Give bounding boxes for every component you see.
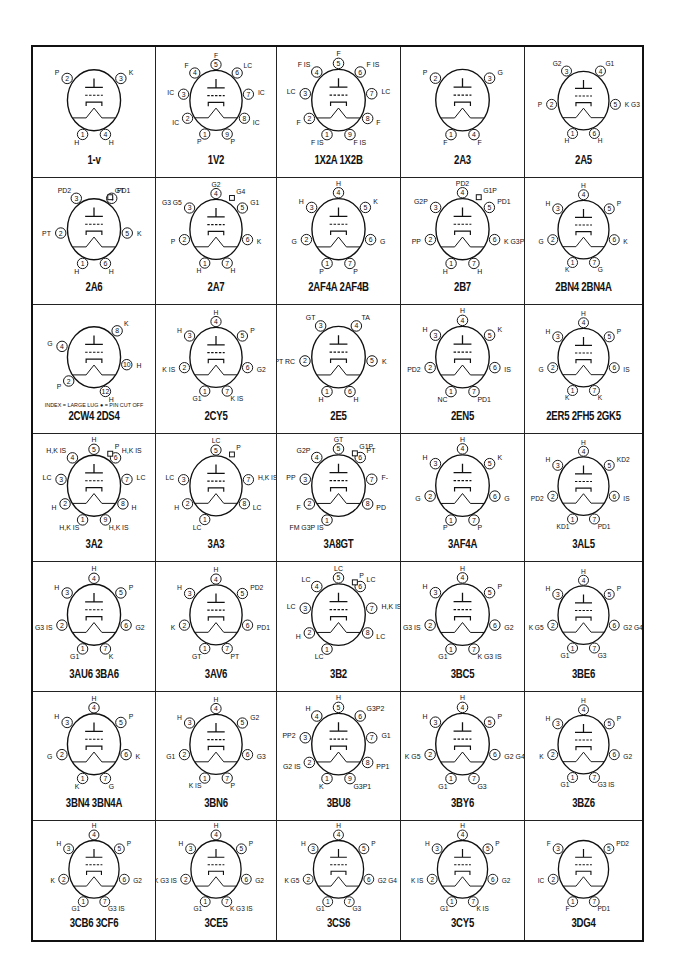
pin-number: 1 — [449, 517, 453, 524]
pin-number: 6 — [103, 260, 107, 267]
pin-number: 7 — [103, 775, 107, 782]
pin: 3H — [545, 715, 562, 729]
pin-label: H — [443, 268, 448, 275]
plate-symbol — [575, 849, 592, 857]
pin-number: 5 — [607, 720, 611, 727]
pin: 1GT — [192, 643, 210, 659]
pin: 8LC — [239, 499, 261, 511]
plate-symbol — [85, 79, 103, 88]
pin-label: G2 — [211, 181, 220, 188]
cathode-symbol — [208, 359, 223, 363]
pin-label: IC — [167, 89, 174, 96]
pin-label: GT — [306, 314, 316, 321]
pin: 3PP2 — [282, 732, 310, 743]
plate-symbol — [330, 722, 348, 731]
pin: 3G3 G5 — [162, 199, 195, 213]
tube-type-label: 2A7 — [168, 280, 264, 294]
pin: 4H — [457, 565, 468, 583]
tube-cell: 1G12G3 IS3H4H5P6G27K3AU6 3BA6 — [33, 562, 156, 692]
filament-symbol — [441, 108, 485, 118]
pin: 6G2 G4 — [609, 620, 642, 630]
pin: 5G2 — [237, 714, 259, 728]
pin-number: 4 — [214, 576, 218, 583]
pin-label: H — [214, 566, 219, 573]
tube-type-label: 3AV6 — [168, 667, 264, 681]
cathode-symbol — [455, 359, 471, 363]
pin-label: H — [336, 694, 341, 701]
pin-label: H — [353, 396, 358, 403]
cathode-symbol — [576, 617, 591, 621]
plate-symbol — [85, 336, 103, 345]
pin: 2H — [52, 499, 71, 512]
pin-label: IC — [172, 119, 179, 126]
pin-number: 1 — [81, 516, 85, 523]
pin-number: 4 — [599, 68, 603, 75]
top-cap — [108, 195, 113, 200]
pin-label: KD1 — [557, 523, 570, 530]
pin: 5P — [604, 585, 622, 599]
tube-type-label: 3AU6 3BA6 — [45, 667, 143, 681]
pin-label: G3 IS — [598, 781, 615, 788]
tube-type-label: 1X2A 1X2B — [289, 153, 387, 167]
pin-number: 2 — [60, 751, 64, 758]
plate-symbol — [208, 849, 225, 857]
pin-label: G1 — [166, 753, 175, 760]
cathode-symbol — [208, 488, 223, 492]
pin-label: F — [184, 62, 188, 69]
pin-number: 7 — [225, 898, 229, 905]
pin-number: 4 — [337, 831, 341, 838]
pin-label: H — [174, 504, 179, 511]
pin-label: H — [581, 568, 586, 575]
pin-number: 3 — [311, 845, 315, 852]
pin-number: 4 — [461, 704, 465, 711]
pin-number: 1 — [571, 130, 575, 137]
pin: 1G1 — [561, 643, 578, 659]
cathode-symbol — [86, 617, 102, 621]
pin-label: G — [598, 266, 603, 273]
pin-label: P — [127, 840, 131, 847]
pin-number: 4 — [315, 583, 319, 590]
pin: 3H — [177, 327, 195, 341]
pin: 3H — [56, 840, 73, 854]
pin-label: P — [617, 585, 622, 592]
filament-symbol — [441, 623, 485, 633]
pin-label: H — [581, 310, 586, 317]
pin: 3G2P — [414, 198, 441, 213]
pin-label: P — [129, 713, 134, 720]
pin-label: K — [136, 753, 141, 760]
pin-label: H — [305, 705, 310, 712]
pin: 3H — [422, 454, 440, 469]
pin-label: H — [92, 565, 97, 572]
pin: 7PD1 — [589, 897, 610, 913]
pin-number: 1 — [81, 131, 85, 138]
pin-label: H — [177, 327, 182, 334]
pin: 6K — [121, 749, 141, 760]
tube-type-label: 2EN5 — [413, 409, 511, 423]
pin-label: PD1 — [257, 624, 270, 631]
filament-symbol — [442, 877, 483, 886]
pin: 4H — [457, 436, 468, 454]
pin-label: LC — [212, 437, 221, 444]
plate-symbol — [85, 723, 103, 732]
pin: 2PD2 — [407, 362, 435, 373]
tube-type-label: 3AF4A — [413, 537, 511, 551]
pin-number: 5 — [607, 205, 611, 212]
plate-symbol — [575, 209, 592, 217]
pin-label: H — [581, 697, 586, 704]
pin: 6G2 — [241, 874, 264, 884]
pin: 3G — [484, 69, 503, 84]
pin: 4F — [184, 62, 199, 78]
filament-symbol — [318, 877, 359, 886]
pin-label: G3 — [598, 652, 607, 659]
pin-number: 8 — [366, 629, 370, 636]
pin-number: 2 — [183, 236, 187, 243]
cathode-symbol — [209, 871, 224, 875]
pin: 4G2P — [297, 447, 322, 463]
plate-symbol — [575, 724, 592, 732]
pin-number: 6 — [124, 622, 128, 629]
plate-symbol — [575, 337, 592, 345]
pin-number: 5 — [241, 333, 245, 340]
pin-number: 3 — [119, 75, 123, 82]
pin-label: G — [539, 238, 544, 245]
pin-label: PD1 — [597, 905, 610, 912]
